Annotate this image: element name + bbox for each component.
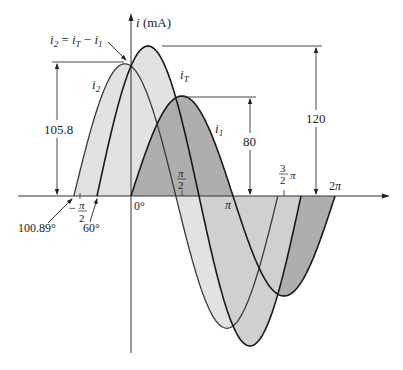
tick-two-pi: 2π [329, 179, 342, 193]
phase-labels: 100.89° 60° [18, 199, 100, 235]
svg-text:π: π [79, 199, 85, 211]
label-100-89: 100.89° [18, 221, 56, 235]
phasor-sinusoid-diagram: 105.8 80 120 i (mA) i2 = iT − i1 i2 iT i… [0, 0, 403, 370]
svg-text:2: 2 [280, 174, 286, 186]
tick-pi: π [225, 198, 232, 212]
svg-text:3: 3 [280, 162, 286, 174]
formula-annotation: i2 = iT − i1 [50, 32, 126, 60]
label-105-8: 105.8 [44, 122, 73, 137]
y-axis-label: i (mA) [136, 15, 171, 30]
label-120: 120 [306, 111, 326, 126]
tick-zero: 0° [134, 199, 145, 213]
svg-text:−: − [69, 201, 76, 215]
label-iT: iT [180, 67, 190, 84]
svg-text:π: π [178, 167, 184, 179]
label-i2: i2 [92, 77, 101, 94]
label-80: 80 [243, 134, 256, 149]
label-i1: i1 [215, 121, 223, 138]
svg-text:i2 = iT − i1: i2 = iT − i1 [50, 32, 103, 49]
svg-text:2: 2 [178, 179, 184, 191]
label-60: 60° [83, 221, 100, 235]
svg-text:π: π [290, 169, 296, 181]
